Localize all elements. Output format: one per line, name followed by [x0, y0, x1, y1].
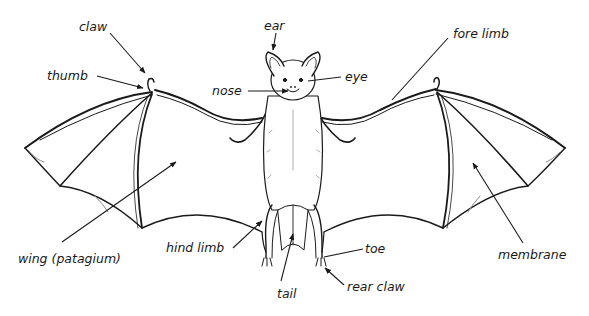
right-foot	[316, 258, 326, 266]
leader-ear	[273, 33, 276, 50]
label-rear-claw: rear claw	[347, 281, 405, 294]
leader-thumb	[97, 76, 143, 88]
right-wing	[316, 78, 565, 232]
right-thumb	[434, 78, 439, 89]
bat-body	[262, 52, 326, 266]
label-claw: claw	[79, 21, 107, 34]
label-nose: nose	[212, 85, 242, 98]
right-finger-3	[437, 93, 449, 228]
left-wing-trailing-edge	[25, 148, 262, 232]
leader-claw	[110, 33, 145, 73]
bat-diagram	[0, 0, 589, 316]
label-tail: tail	[277, 288, 297, 301]
label-ear: ear	[264, 20, 285, 33]
label-wing-patagium: wing (patagium)	[18, 253, 121, 266]
leader-rear-claw	[325, 268, 344, 285]
right-forearm	[322, 89, 436, 120]
right-finger-2	[437, 92, 528, 186]
label-hind-limb: hind limb	[166, 242, 224, 255]
left-wing	[25, 78, 268, 232]
label-fore-limb: fore limb	[453, 28, 509, 41]
right-leg	[314, 205, 322, 258]
label-eye: eye	[345, 71, 368, 84]
label-toe: toe	[365, 243, 385, 256]
label-thumb: thumb	[47, 70, 88, 83]
left-upper-arm	[230, 108, 268, 142]
right-eye-dot	[299, 78, 302, 81]
left-eye	[283, 78, 286, 81]
left-foot	[262, 258, 272, 266]
left-leg	[266, 205, 272, 258]
leader-toe	[324, 249, 363, 257]
left-finger-3	[138, 94, 152, 228]
leader-wing	[62, 162, 176, 242]
label-membrane: membrane	[498, 249, 566, 262]
left-thumb	[148, 78, 154, 91]
